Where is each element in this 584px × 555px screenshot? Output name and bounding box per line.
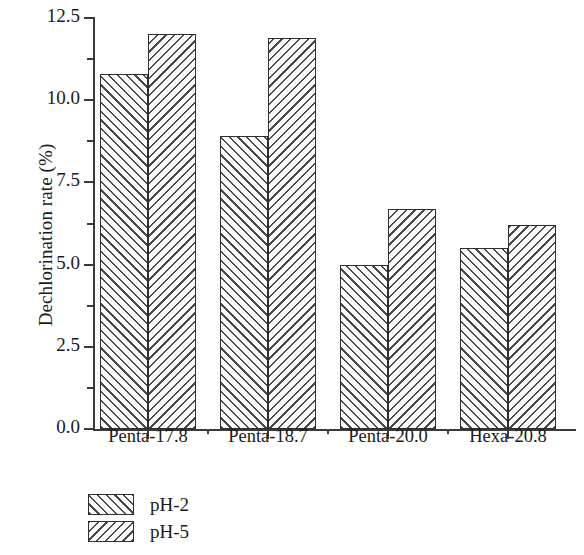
x-axis-label: Penta-17.8 xyxy=(108,426,188,447)
bar xyxy=(220,136,268,429)
y-tick-label: 0.0 xyxy=(56,416,80,438)
y-tick-mark xyxy=(84,99,93,101)
y-tick-mark xyxy=(87,387,93,389)
bar-chart-figure: Dechlorination rate (%) 0.02.55.07.510.0… xyxy=(0,0,584,555)
y-axis-line xyxy=(93,17,95,430)
y-tick-mark xyxy=(84,17,93,19)
bar xyxy=(100,74,148,429)
y-tick-mark xyxy=(84,181,93,183)
y-tick-label: 7.5 xyxy=(56,169,80,191)
y-tick-mark xyxy=(87,140,93,142)
legend-swatch xyxy=(88,494,134,515)
x-tick-minor xyxy=(207,429,209,434)
y-tick-mark xyxy=(84,264,93,266)
x-axis-label: Penta-20.0 xyxy=(348,426,428,447)
y-tick-label: 10.0 xyxy=(47,87,80,109)
plot-area: 0.02.55.07.510.012.5 xyxy=(93,18,575,429)
bar xyxy=(268,38,316,429)
y-tick-label: 2.5 xyxy=(56,334,80,356)
legend-label: pH-2 xyxy=(150,495,189,514)
y-tick-label: 12.5 xyxy=(47,5,80,27)
y-axis-title: Dechlorination rate (%) xyxy=(35,85,57,385)
x-axis-label: Penta-18.7 xyxy=(228,426,308,447)
legend-item: pH-5 xyxy=(88,519,189,544)
bar xyxy=(148,34,196,429)
legend: pH-2pH-5 xyxy=(88,492,189,546)
bar xyxy=(340,265,388,429)
y-tick-mark xyxy=(87,305,93,307)
y-tick-mark xyxy=(87,58,93,60)
y-tick-label: 5.0 xyxy=(56,252,80,274)
bar xyxy=(508,225,556,429)
legend-item: pH-2 xyxy=(88,492,189,517)
legend-label: pH-5 xyxy=(150,522,189,541)
bar xyxy=(388,209,436,429)
y-tick-mark xyxy=(84,346,93,348)
y-tick-mark xyxy=(87,223,93,225)
x-tick-minor xyxy=(327,429,329,434)
bar xyxy=(460,248,508,429)
x-tick-minor xyxy=(447,429,449,434)
x-axis-label: Hexa-20.8 xyxy=(469,426,547,447)
legend-swatch xyxy=(88,521,134,542)
y-tick-mark xyxy=(84,428,93,430)
